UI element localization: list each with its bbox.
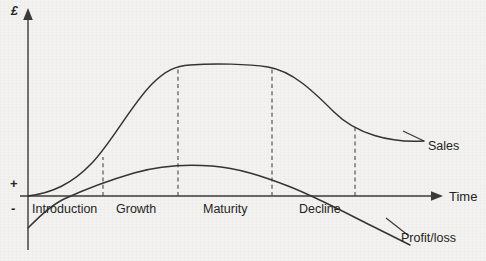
series-label-sales: Sales xyxy=(428,140,459,153)
y-axis-positive-sign: + xyxy=(10,177,18,190)
x-axis-name-label: Time xyxy=(449,190,477,203)
stage-label-introduction: Introduction xyxy=(32,203,97,216)
y-axis-arrow-icon xyxy=(23,8,33,20)
stage-label-growth: Growth xyxy=(116,203,156,216)
chart-canvas xyxy=(0,0,486,261)
y-axis-negative-sign: - xyxy=(11,202,15,215)
series-label-profit-loss: Profit/loss xyxy=(401,232,456,245)
stage-label-maturity: Maturity xyxy=(203,203,247,216)
x-axis-arrow-icon xyxy=(431,191,443,201)
sales-leader-line xyxy=(403,131,424,141)
product-life-cycle-chart: £ + - Time Introduction Growth Maturity … xyxy=(0,0,486,261)
sales-curve xyxy=(28,64,424,196)
y-axis-unit-label: £ xyxy=(11,5,18,17)
stage-label-decline: Decline xyxy=(299,203,341,216)
